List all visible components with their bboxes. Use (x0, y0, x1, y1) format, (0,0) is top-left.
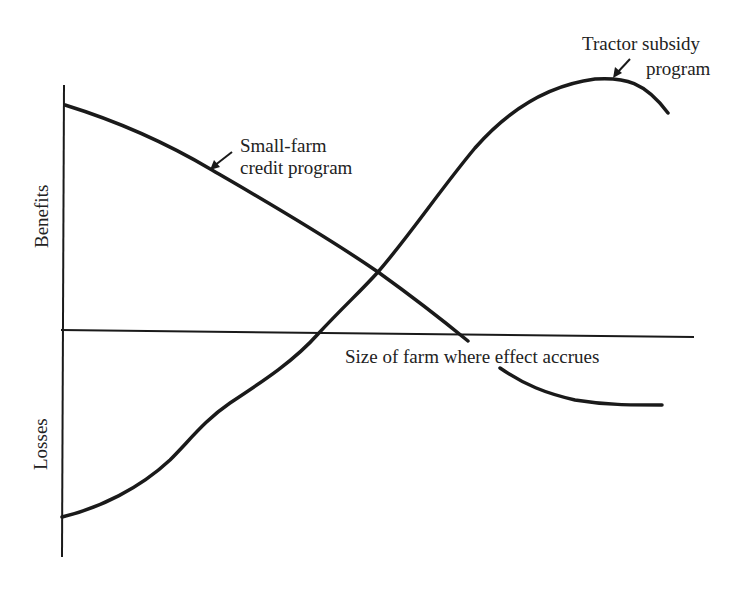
y-axis-label-benefits: Benefits (31, 185, 52, 248)
tractor-subsidy-curve (62, 79, 668, 517)
y-axis-label-losses: Losses (30, 418, 51, 470)
small-farm-credit-curve-tail (500, 368, 662, 405)
x-axis-label: Size of farm where effect accrues (345, 346, 599, 367)
tractor-label-line2: program (646, 58, 711, 79)
small-farm-label-line2: credit program (240, 157, 353, 178)
small-farm-label-line1: Small-farm (240, 135, 327, 156)
x-axis (61, 330, 694, 337)
y-axis (62, 85, 64, 557)
diagram-canvas: Small-farm credit program Tractor subsid… (0, 0, 749, 590)
tractor-label-line1: Tractor subsidy (582, 33, 701, 54)
tractor-arrow-icon (613, 59, 630, 78)
small-farm-arrow-icon (210, 152, 232, 170)
